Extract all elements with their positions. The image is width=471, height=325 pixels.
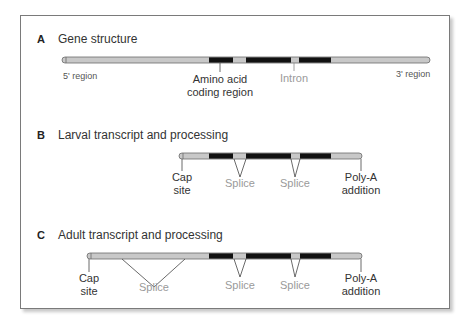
splice-label-1: Splice — [220, 177, 260, 190]
poly-a-addition-label: Poly-A addition — [338, 171, 384, 197]
splice-label-1: Splice — [220, 279, 260, 292]
splice-label-2: Splice — [275, 279, 315, 292]
splice-label-2: Splice — [275, 177, 315, 190]
panel-a-title: Gene structure — [58, 32, 137, 46]
five-prime-region-label: 5' region — [63, 71, 97, 81]
three-prime-region-label: 3' region — [396, 69, 430, 79]
gene-diagram — [0, 0, 471, 325]
poly-a-addition-label: Poly-A addition — [338, 272, 384, 298]
panel-c-letter: C — [37, 229, 45, 241]
gene-structure-bar — [62, 57, 430, 72]
coding-region-label: Amino acid coding region — [180, 73, 260, 99]
larval-transcript-bar — [179, 153, 362, 177]
panel-b-title: Larval transcript and processing — [58, 128, 228, 142]
intron-label: Intron — [274, 72, 314, 85]
panel-a-letter: A — [37, 33, 45, 45]
splice-label-0: Splice — [134, 281, 174, 294]
panel-b-letter: B — [37, 129, 45, 141]
panel-c-title: Adult transcript and processing — [58, 228, 223, 242]
cap-site-label: Cap site — [168, 171, 196, 197]
cap-site-label: Cap site — [75, 272, 103, 298]
